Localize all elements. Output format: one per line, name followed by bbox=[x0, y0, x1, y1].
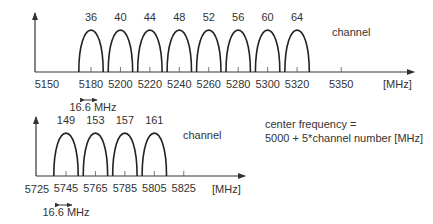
channel-44-spectrum bbox=[138, 30, 162, 72]
upper-channel-label: channel bbox=[183, 129, 222, 141]
channel-52-spectrum bbox=[197, 30, 221, 72]
channel-149-spectrum bbox=[54, 133, 78, 176]
freq-5765-label: 5765 bbox=[83, 182, 107, 194]
channel-153-label: 153 bbox=[86, 114, 104, 126]
freq-5200-label: 5200 bbox=[108, 78, 132, 90]
formula-line-1: center frequency = bbox=[265, 118, 356, 130]
freq-5280-label: 5280 bbox=[226, 78, 250, 90]
channel-153-spectrum bbox=[83, 133, 107, 176]
freq-5785-label: 5785 bbox=[113, 182, 137, 194]
lower-axis-start-label: 5150 bbox=[35, 78, 59, 90]
channel-60-spectrum bbox=[255, 30, 279, 72]
upper-band: 14957451535765157578516158055825 5725 [M… bbox=[25, 114, 245, 218]
channel-52-label: 52 bbox=[203, 11, 215, 23]
freq-5260-label: 5260 bbox=[197, 78, 221, 90]
freq-5180-label: 5180 bbox=[79, 78, 103, 90]
freq-5320-label: 5320 bbox=[285, 78, 309, 90]
freq-5300-label: 5300 bbox=[255, 78, 279, 90]
channel-48-label: 48 bbox=[173, 11, 185, 23]
freq-5350-label: 5350 bbox=[329, 78, 353, 90]
channel-161-spectrum bbox=[142, 133, 166, 176]
formula-line-2: 5000 + 5*channel number [MHz] bbox=[265, 132, 423, 144]
lower-unit-label: [MHz] bbox=[383, 78, 412, 90]
channel-40-label: 40 bbox=[114, 11, 126, 23]
channel-56-spectrum bbox=[226, 30, 250, 72]
lower-channel-label: channel bbox=[332, 26, 371, 38]
channel-161-label: 161 bbox=[145, 114, 163, 126]
channel-48-spectrum bbox=[167, 30, 191, 72]
channel-36-spectrum bbox=[79, 30, 103, 72]
lower-bandwidth-label: 16.6 MHz bbox=[69, 101, 116, 113]
channel-diagram: 3651804052004452204852405252605652806053… bbox=[0, 0, 433, 224]
upper-unit-label: [MHz] bbox=[212, 183, 241, 195]
freq-5825-label: 5825 bbox=[172, 182, 196, 194]
channel-36-label: 36 bbox=[85, 11, 97, 23]
upper-axis-start-label: 5725 bbox=[25, 183, 49, 195]
freq-5220-label: 5220 bbox=[138, 78, 162, 90]
freq-5745-label: 5745 bbox=[54, 182, 78, 194]
upper-bandwidth-label: 16.6 MHz bbox=[42, 206, 89, 218]
channel-157-label: 157 bbox=[116, 114, 134, 126]
channel-64-label: 64 bbox=[291, 11, 303, 23]
channel-56-label: 56 bbox=[232, 11, 244, 23]
channel-40-spectrum bbox=[108, 30, 132, 72]
channel-64-spectrum bbox=[285, 30, 309, 72]
channel-44-label: 44 bbox=[144, 11, 156, 23]
channel-149-label: 149 bbox=[57, 114, 75, 126]
channel-60-label: 60 bbox=[262, 11, 274, 23]
freq-5805-label: 5805 bbox=[142, 182, 166, 194]
lower-band: 3651804052004452204852405252605652806053… bbox=[35, 11, 414, 113]
channel-157-spectrum bbox=[113, 133, 137, 176]
freq-5240-label: 5240 bbox=[167, 78, 191, 90]
